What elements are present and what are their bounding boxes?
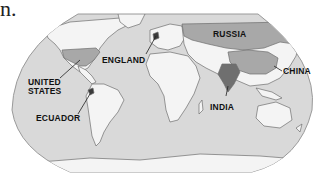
label-ecuador: ECUADOR <box>36 114 80 123</box>
label-china: CHINA <box>283 67 311 76</box>
label-united-states-line2: STATES <box>28 87 61 96</box>
label-russia: RUSSIA <box>213 30 246 39</box>
label-india: INDIA <box>210 103 234 112</box>
label-england: ENGLAND <box>102 56 145 65</box>
label-united-states: UNITED STATES <box>28 78 61 96</box>
